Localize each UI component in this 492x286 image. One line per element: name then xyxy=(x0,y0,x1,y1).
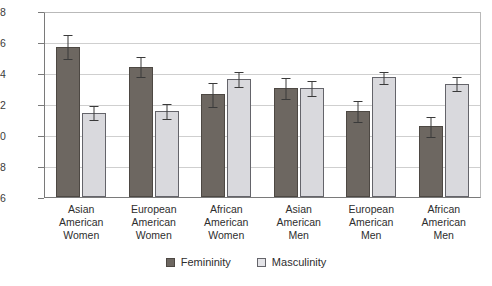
x-axis-label-line: European xyxy=(118,203,191,216)
y-axis-tick-label: 3.6 xyxy=(0,192,6,204)
error-bar xyxy=(430,117,431,138)
x-axis-label-line: American xyxy=(190,216,263,229)
bar-masculinity[interactable] xyxy=(445,84,469,197)
y-axis-tick-label: 4.8 xyxy=(0,6,6,18)
y-axis-tick-mark xyxy=(38,198,44,199)
x-axis-label-line: American xyxy=(263,216,336,229)
legend-swatch-femininity xyxy=(166,258,175,267)
y-axis-tick-label: 4.0 xyxy=(0,130,6,142)
bar-group xyxy=(408,13,481,197)
error-bar xyxy=(311,81,312,96)
y-axis-tick-label: 3.8 xyxy=(0,161,6,173)
bar-femininity[interactable] xyxy=(346,111,370,197)
bar-masculinity[interactable] xyxy=(300,88,324,197)
x-axis-label: AfricanAmericanWomen xyxy=(190,203,263,242)
x-axis-label-line: American xyxy=(335,216,408,229)
bar-group xyxy=(335,13,408,197)
error-bar xyxy=(456,77,457,92)
x-axis-label-line: American xyxy=(45,216,118,229)
bar-femininity[interactable] xyxy=(201,94,225,197)
x-axis-label-line: Women xyxy=(118,229,191,242)
x-axis-label-line: Asian xyxy=(45,203,118,216)
error-bar xyxy=(94,106,95,121)
x-axis-label: EuropeanAmericanWomen xyxy=(118,203,191,242)
x-axis-label-line: American xyxy=(118,216,191,229)
y-axis-tick-mark xyxy=(38,74,44,75)
bar-masculinity[interactable] xyxy=(372,77,396,197)
chart-legend: Femininity Masculinity xyxy=(0,256,492,268)
y-axis-tick-label: 4.2 xyxy=(0,99,6,111)
x-axis-label-line: European xyxy=(335,203,408,216)
x-axis-label-line: African xyxy=(190,203,263,216)
x-axis-label-line: Women xyxy=(190,229,263,242)
bar-femininity[interactable] xyxy=(419,126,443,197)
y-axis-tick-mark xyxy=(38,43,44,44)
x-axis-label-line: Men xyxy=(335,229,408,242)
x-axis-label-line: Women xyxy=(45,229,118,242)
error-bar xyxy=(285,78,286,99)
x-axis-label-line: Men xyxy=(263,229,336,242)
bar-chart: 4.84.64.44.24.03.83.6 AsianAmericanWomen… xyxy=(0,0,492,286)
bar-group xyxy=(263,13,336,197)
x-axis-label-line: African xyxy=(408,203,481,216)
x-axis-label-line: Asian xyxy=(263,203,336,216)
bar-femininity[interactable] xyxy=(129,67,153,197)
error-bar xyxy=(358,101,359,122)
bar-masculinity[interactable] xyxy=(155,111,179,197)
error-bar xyxy=(68,35,69,60)
bar-femininity[interactable] xyxy=(56,47,80,197)
y-axis-tick-label: 4.6 xyxy=(0,37,6,49)
bar-groups xyxy=(45,13,480,197)
y-axis-tick-mark xyxy=(38,12,44,13)
y-axis-tick-mark xyxy=(38,105,44,106)
bar-group xyxy=(118,13,191,197)
x-axis-label: EuropeanAmericanMen xyxy=(335,203,408,242)
legend-swatch-masculinity xyxy=(257,258,266,267)
y-axis-tick-mark xyxy=(38,136,44,137)
x-axis-label: AfricanAmericanMen xyxy=(408,203,481,242)
x-axis-label: AsianAmericanWomen xyxy=(45,203,118,242)
error-bar xyxy=(239,72,240,87)
error-bar xyxy=(384,72,385,84)
x-axis-label-line: American xyxy=(408,216,481,229)
legend-item-masculinity[interactable]: Masculinity xyxy=(257,256,326,268)
bar-masculinity[interactable] xyxy=(227,79,251,197)
bar-femininity[interactable] xyxy=(274,88,298,197)
x-axis-label: AsianAmericanMen xyxy=(263,203,336,242)
y-axis-tick-label: 4.4 xyxy=(0,68,6,80)
bar-group xyxy=(190,13,263,197)
x-axis-labels: AsianAmericanWomenEuropeanAmericanWomenA… xyxy=(45,203,480,242)
y-axis-tick-mark xyxy=(38,167,44,168)
error-bar xyxy=(213,83,214,108)
bar-group xyxy=(45,13,118,197)
legend-label-masculinity: Masculinity xyxy=(272,256,326,268)
legend-item-femininity[interactable]: Femininity xyxy=(166,256,231,268)
x-axis-label-line: Men xyxy=(408,229,481,242)
legend-label-femininity: Femininity xyxy=(181,256,231,268)
error-bar xyxy=(166,104,167,119)
error-bar xyxy=(140,57,141,78)
bar-masculinity[interactable] xyxy=(82,113,106,197)
